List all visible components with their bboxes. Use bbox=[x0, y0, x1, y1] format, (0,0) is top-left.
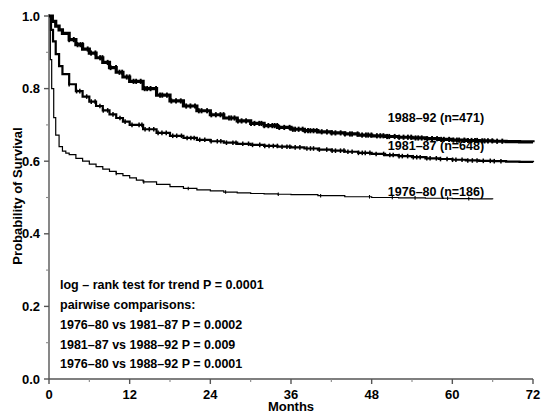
stats-line-3: 1981–87 vs 1988–92 P = 0.009 bbox=[60, 338, 235, 352]
x-axis-title: Months bbox=[268, 399, 314, 414]
x-axis-ticks bbox=[49, 379, 533, 384]
stats-line-4: 1976–80 vs 1988–92 P = 0.0001 bbox=[60, 357, 242, 371]
x-tick-label: 72 bbox=[526, 387, 540, 402]
stats-line-2: 1976–80 vs 1981–87 P = 0.0002 bbox=[60, 318, 242, 332]
x-tick-label: 60 bbox=[445, 387, 459, 402]
curve-label-1976-80: 1976–80 (n=186) bbox=[388, 185, 484, 199]
statistics-annotation: log – rank test for trend P = 0.0001 pai… bbox=[60, 278, 264, 371]
y-axis-ticks bbox=[44, 16, 49, 379]
x-tick-label: 24 bbox=[203, 387, 218, 402]
y-tick-label: 0.8 bbox=[22, 81, 40, 96]
survival-plot-figure: 0.00.20.40.60.81.0 0122436486072 Probabi… bbox=[0, 0, 547, 419]
y-axis-title: Probability of Survival bbox=[10, 127, 25, 264]
survival-curve-2 bbox=[49, 16, 493, 199]
stats-line-0: log – rank test for trend P = 0.0001 bbox=[60, 278, 264, 292]
y-tick-label: 0.0 bbox=[22, 372, 40, 387]
curve-label-1981-87: 1981–87 (n=648) bbox=[388, 139, 484, 153]
y-tick-label: 1.0 bbox=[22, 9, 40, 24]
curve-label-1988-92: 1988–92 (n=471) bbox=[388, 111, 484, 125]
survival-curves bbox=[49, 16, 533, 199]
x-tick-label: 0 bbox=[45, 387, 52, 402]
kaplan-meier-chart: 0.00.20.40.60.81.0 0122436486072 Probabi… bbox=[0, 0, 547, 419]
x-tick-label: 48 bbox=[364, 387, 378, 402]
y-tick-label: 0.2 bbox=[22, 299, 40, 314]
stats-line-1: pairwise comparisons: bbox=[60, 298, 195, 312]
x-tick-label: 12 bbox=[122, 387, 136, 402]
